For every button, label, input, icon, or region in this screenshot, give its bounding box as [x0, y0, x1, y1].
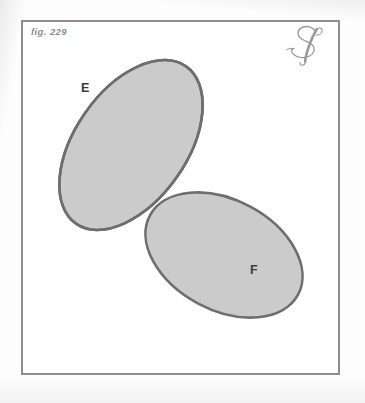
- script-monogram-s-icon: [276, 22, 328, 68]
- set-label-e: E: [81, 81, 89, 95]
- figure-page: fig. 229 E F: [0, 0, 365, 403]
- figure-caption: fig. 229: [31, 26, 67, 37]
- venn-diagram-canvas: [21, 20, 340, 375]
- set-label-f: F: [250, 263, 258, 277]
